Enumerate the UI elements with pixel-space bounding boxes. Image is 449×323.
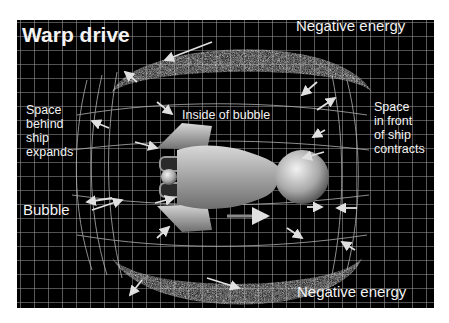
label-bubble: Bubble	[23, 202, 70, 219]
label-line: Space	[26, 103, 73, 117]
warp-drive-diagram: Warp drive Negative energy Negative ener…	[17, 20, 434, 308]
label-inside-bubble: Inside of bubble	[182, 108, 270, 122]
label-line: contracts	[374, 142, 425, 156]
label-space-behind: Space behind ship expands	[26, 103, 73, 159]
label-negative-energy-top: Negative energy	[296, 20, 405, 35]
label-line: expands	[26, 145, 73, 159]
label-line: in front	[374, 114, 425, 128]
label-line: of ship	[374, 128, 425, 142]
label-line: behind	[26, 117, 73, 131]
label-space-front: Space in front of ship contracts	[374, 100, 425, 156]
label-line: Space	[374, 100, 425, 114]
label-line: ship	[26, 131, 73, 145]
diagram-graphics	[17, 20, 434, 308]
diagram-title: Warp drive	[22, 23, 130, 47]
label-negative-energy-bottom: Negative energy	[297, 284, 406, 301]
